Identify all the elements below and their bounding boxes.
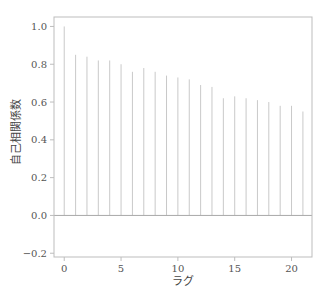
acf-chart: −0.20.00.20.40.60.81.0 05101520 ラグ 自己相関係…	[0, 0, 328, 304]
x-tick-label: 10	[172, 263, 185, 274]
y-tick-label: 0.0	[31, 210, 47, 221]
x-axis-label: ラグ	[172, 274, 194, 288]
acf-stems	[64, 26, 303, 215]
y-tick-label: 1.0	[31, 21, 47, 32]
x-tick-label: 5	[118, 263, 124, 274]
x-tick-label: 0	[61, 263, 67, 274]
y-axis-label: 自己相関係数	[10, 99, 23, 165]
x-tick-label: 20	[285, 263, 298, 274]
y-tick-label: 0.8	[31, 59, 47, 70]
y-tick-label: −0.2	[23, 248, 47, 259]
x-tick-label: 15	[228, 263, 241, 274]
y-tick-label: 0.6	[31, 97, 47, 108]
y-tick-label: 0.2	[31, 172, 47, 183]
y-axis: −0.20.00.20.40.60.81.0	[23, 21, 54, 259]
x-axis: 05101520	[61, 257, 298, 274]
plot-frame	[54, 17, 312, 257]
y-tick-label: 0.4	[31, 134, 47, 145]
